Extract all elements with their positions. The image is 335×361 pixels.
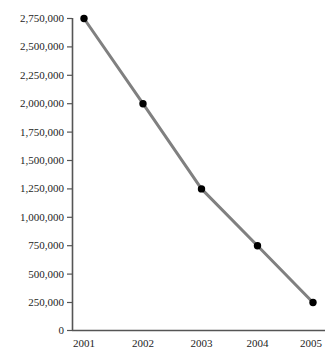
- y-tick-label: 2,250,000: [0, 70, 64, 81]
- x-tick-label: 2001: [56, 338, 112, 349]
- data-point-2003: [198, 185, 205, 192]
- y-tick-label: 2,750,000: [0, 13, 64, 24]
- y-tick-label: 2,000,000: [0, 98, 64, 109]
- y-tick-label: 0: [0, 325, 64, 336]
- x-tick-label: 2005: [283, 338, 335, 349]
- x-tick-label: 2002: [115, 338, 171, 349]
- x-tick-label: 2003: [174, 338, 230, 349]
- y-axis-ticks: [67, 19, 72, 331]
- x-tick-label: 2004: [230, 338, 286, 349]
- line-chart: 2,750,000 2,500,000 2,250,000 2,000,000 …: [0, 0, 335, 361]
- data-line: [84, 19, 313, 303]
- y-tick-label: 1,750,000: [0, 127, 64, 138]
- data-point-2001: [80, 15, 87, 22]
- y-tick-label: 250,000: [0, 297, 64, 308]
- y-tick-label: 1,250,000: [0, 183, 64, 194]
- y-tick-label: 500,000: [0, 269, 64, 280]
- data-point-2004: [254, 242, 261, 249]
- y-tick-label: 1,500,000: [0, 155, 64, 166]
- y-tick-label: 1,000,000: [0, 212, 64, 223]
- data-point-2002: [139, 100, 146, 107]
- data-point-2005: [309, 299, 316, 306]
- y-tick-label: 2,500,000: [0, 41, 64, 52]
- data-markers: [80, 15, 316, 306]
- y-tick-label: 750,000: [0, 240, 64, 251]
